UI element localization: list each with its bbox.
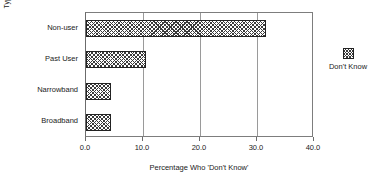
x-axis-tick-mark (85, 137, 86, 141)
x-axis-tick-mark (256, 137, 257, 141)
bar (86, 114, 111, 131)
y-axis-tick-labels: Non-user Past User Narrowband Broadband (18, 12, 81, 137)
bar-series-dont-know (86, 13, 312, 136)
legend-swatch-dont-know (343, 48, 354, 59)
x-axis-title: Percentage Who 'Don't Know' (85, 163, 313, 172)
bar-chart: Type of user/non-user Non-user Past User… (0, 0, 376, 184)
x-axis-tick-label: 20.0 (179, 143, 219, 152)
y-axis-tick-label: Past User (45, 53, 78, 65)
bar (86, 51, 146, 68)
y-axis-tick-label: Broadband (41, 115, 78, 127)
x-axis-tick-mark (199, 137, 200, 141)
y-axis-title: Type of user/non-user (0, 0, 14, 36)
bar (86, 83, 111, 100)
y-axis-tick-label: Narrowband (37, 84, 78, 96)
x-axis-tick-mark (313, 137, 314, 141)
plot-area (85, 12, 313, 137)
x-axis-tick-label: 40.0 (293, 143, 333, 152)
y-axis-tick-label: Non-user (47, 22, 78, 34)
legend: Don't Know (320, 48, 376, 71)
x-axis-tick-label: 10.0 (122, 143, 162, 152)
x-axis-tick-label: 30.0 (236, 143, 276, 152)
x-axis-tick-label: 0.0 (65, 143, 105, 152)
legend-label-dont-know: Don't Know (320, 62, 376, 71)
x-axis-tick-mark (142, 137, 143, 141)
bar (86, 20, 266, 37)
